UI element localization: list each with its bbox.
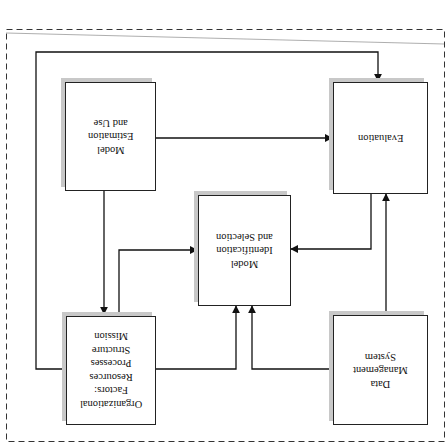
node-label: Organizational Factors: Resources Proces…: [80, 330, 142, 411]
node-model-estimation: Model Estimation and Use: [65, 82, 156, 191]
slanted-rule: [6, 33, 444, 44]
node-label: Evaluation: [358, 131, 404, 145]
edge-data-to-identification: [252, 306, 333, 369]
node-evaluation: Evaluation: [333, 82, 428, 194]
node-data-management: Data Management System: [333, 315, 428, 425]
edge-evaluation-to-identification: [291, 193, 371, 249]
edge-organizational-to-identification: [119, 250, 197, 316]
node-organizational-factors: Organizational Factors: Resources Proces…: [66, 316, 156, 425]
edge-organizational-to-identification-bottom: [155, 306, 236, 369]
node-model-identification: Model Identification and Selection: [198, 195, 291, 306]
node-label: Model Identification and Selection: [216, 230, 273, 271]
node-label: Model Estimation and Use: [88, 116, 134, 157]
node-label: Data Management System: [353, 350, 408, 391]
